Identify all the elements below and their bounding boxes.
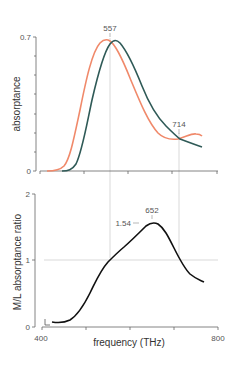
- ratio-curve: [52, 223, 204, 323]
- top-ylabel: absorptance: [11, 76, 22, 131]
- top-y-axis: [33, 37, 36, 171]
- bottom-ylabel: M/L absorptance ratio: [12, 213, 23, 310]
- bottom-panel: 2 1 0 M/L absorptance ratio 400 800 freq…: [12, 190, 225, 348]
- bottom-ytick-2: 2: [26, 190, 31, 199]
- x-axis-label: frequency (THz): [93, 337, 165, 348]
- M-cone-curve: [62, 41, 202, 172]
- bottom-x-axis: [42, 327, 218, 330]
- reference-lines: [44, 38, 218, 260]
- top-ytick-min: 0: [27, 167, 32, 176]
- figure: 0.7 0 absorptance 557 714 2: [0, 0, 239, 375]
- bottom-ytick-0: 0: [26, 323, 31, 332]
- xtick-800: 800: [211, 334, 225, 343]
- top-ytick-max: 0.7: [20, 33, 32, 42]
- ref-label-714: 714: [172, 120, 186, 129]
- top-panel: 0.7 0 absorptance 557 714: [11, 24, 218, 176]
- peak-x-label: 652: [145, 206, 159, 215]
- peak-y-label: 1.54: [115, 219, 131, 228]
- ref-label-557: 557: [103, 24, 117, 33]
- xtick-400: 400: [34, 334, 48, 343]
- origin-marker: [45, 319, 50, 325]
- bottom-ytick-1: 1: [26, 256, 31, 265]
- top-x-axis: [40, 171, 218, 174]
- bottom-y-axis: [32, 194, 35, 327]
